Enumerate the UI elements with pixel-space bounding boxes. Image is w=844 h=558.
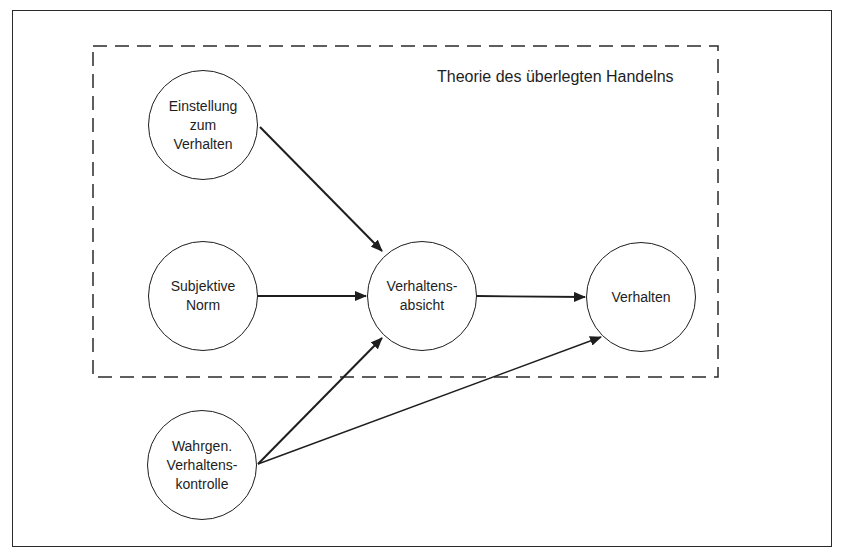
node-verhaltensabsicht: Verhaltens- absicht <box>367 241 477 351</box>
group-title: Theorie des überlegten Handelns <box>437 68 674 86</box>
node-label: Wahrgen. Verhaltens- kontrolle <box>167 437 238 494</box>
node-verhalten: Verhalten <box>586 242 696 352</box>
node-label: Verhalten <box>611 288 670 307</box>
node-label: Einstellung zum Verhalten <box>169 97 238 154</box>
node-label: Subjektive Norm <box>171 277 236 315</box>
edge-absicht-to-verhalten <box>477 296 585 297</box>
edge-kontrolle-to-absicht <box>258 338 382 464</box>
node-subjektive-norm: Subjektive Norm <box>148 241 258 351</box>
edge-kontrolle-to-verhalten <box>258 337 601 464</box>
edge-einstellung-to-absicht <box>260 127 382 251</box>
node-label: Verhaltens- absicht <box>387 277 458 315</box>
node-wahrgenommene-verhaltenskontrolle: Wahrgen. Verhaltens- kontrolle <box>147 410 257 520</box>
node-einstellung-zum-verhalten: Einstellung zum Verhalten <box>148 70 258 180</box>
